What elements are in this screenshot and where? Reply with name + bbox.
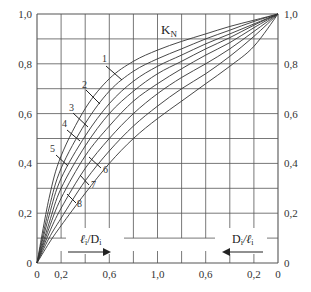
x-axis-ticks: 00,20,61,00,60,20 bbox=[34, 268, 281, 280]
arrow-right-head-icon bbox=[103, 248, 111, 256]
curve-label-7: 7 bbox=[91, 179, 96, 190]
curve-label-4: 4 bbox=[62, 118, 67, 129]
x-tick-label: 1,0 bbox=[151, 268, 165, 280]
x-tick-label: 0,6 bbox=[102, 268, 116, 280]
x-tick-label: 0 bbox=[275, 268, 281, 280]
y-tick-label: 0,2 bbox=[284, 207, 298, 219]
y-axis-right-ticks: 00,20,40,60,81,0 bbox=[284, 8, 298, 269]
xlabel-left: ℓi/Di bbox=[80, 232, 102, 247]
y-tick-label: 1,0 bbox=[284, 8, 298, 20]
y-tick-label: 0,4 bbox=[284, 157, 298, 169]
chart-title: KN bbox=[161, 22, 177, 39]
y-tick-label: 0,6 bbox=[18, 108, 32, 120]
curve-label-1: 1 bbox=[102, 53, 107, 64]
curve-label-3: 3 bbox=[69, 102, 74, 113]
direction-left: ℓi/Di bbox=[66, 228, 124, 256]
arrow-left-head-icon bbox=[222, 248, 230, 256]
y-tick-label: 0 bbox=[284, 257, 290, 269]
curve-label-6: 6 bbox=[103, 164, 108, 175]
curve-label-5: 5 bbox=[50, 143, 55, 154]
curve-label-8: 8 bbox=[77, 198, 82, 209]
y-tick-label: 0,4 bbox=[18, 157, 32, 169]
curve-label-leader bbox=[106, 66, 122, 80]
direction-right: Di/ℓi bbox=[215, 228, 267, 256]
y-tick-label: 0 bbox=[27, 257, 33, 269]
curve-label-2: 2 bbox=[82, 79, 87, 90]
y-tick-label: 1,0 bbox=[18, 8, 32, 20]
y-tick-label: 0,2 bbox=[18, 207, 32, 219]
x-tick-label: 0,2 bbox=[247, 268, 261, 280]
x-tick-label: 0 bbox=[34, 268, 40, 280]
x-tick-label: 0,6 bbox=[199, 268, 213, 280]
grid bbox=[37, 14, 278, 263]
y-axis-left-ticks: 00,20,40,60,81,0 bbox=[18, 8, 32, 269]
curve-label-leader bbox=[86, 90, 100, 104]
x-tick-label: 0,2 bbox=[54, 268, 68, 280]
kn-chart: 12345678 00,20,40,60,81,0 00,20,40,60,81… bbox=[0, 0, 311, 292]
y-tick-label: 0,8 bbox=[18, 58, 32, 70]
curve-label-leader bbox=[80, 175, 89, 185]
y-tick-label: 0,8 bbox=[284, 58, 298, 70]
xlabel-right: Di/ℓi bbox=[232, 232, 254, 247]
y-tick-label: 0,6 bbox=[284, 108, 298, 120]
